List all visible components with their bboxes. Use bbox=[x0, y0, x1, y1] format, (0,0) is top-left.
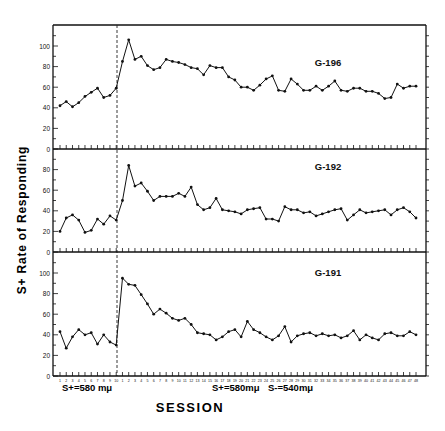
data-point bbox=[265, 218, 268, 221]
data-point bbox=[402, 206, 405, 209]
y-axis-label: S+ Rate of Responding bbox=[15, 146, 29, 294]
data-point bbox=[327, 85, 330, 88]
data-point bbox=[146, 190, 149, 193]
data-point bbox=[315, 85, 318, 88]
data-point bbox=[258, 331, 261, 334]
data-point bbox=[90, 331, 93, 334]
data-point bbox=[196, 331, 199, 334]
data-point bbox=[290, 78, 293, 81]
data-point bbox=[371, 336, 374, 339]
x-tick-label: 36 bbox=[339, 379, 343, 383]
x-tick-label: 40 bbox=[364, 379, 368, 383]
x-tick-label: 5 bbox=[146, 379, 148, 383]
data-point bbox=[283, 325, 286, 328]
x-tick-label: 46 bbox=[402, 379, 406, 383]
x-tick-label: 34 bbox=[327, 379, 331, 383]
data-point bbox=[146, 64, 149, 67]
data-point bbox=[302, 211, 305, 214]
data-point bbox=[415, 333, 418, 336]
data-point bbox=[358, 339, 361, 342]
data-point bbox=[215, 339, 218, 342]
data-point bbox=[346, 219, 349, 222]
y-tick-label: 100 bbox=[39, 43, 50, 50]
data-point bbox=[127, 38, 130, 41]
data-point bbox=[415, 85, 418, 88]
data-point bbox=[190, 323, 193, 326]
data-point bbox=[208, 333, 211, 336]
data-point bbox=[202, 332, 205, 335]
x-tick-label: 1 bbox=[121, 379, 123, 383]
x-tick-label: 8 bbox=[165, 379, 167, 383]
data-point bbox=[121, 277, 124, 280]
data-point bbox=[402, 334, 405, 337]
y-tick-label: 40 bbox=[43, 331, 51, 338]
panel-g-191: 020406080100G-191 bbox=[39, 263, 429, 380]
data-point bbox=[290, 341, 293, 344]
data-point bbox=[246, 86, 249, 89]
data-point bbox=[383, 332, 386, 335]
data-point bbox=[84, 95, 87, 98]
x-tick-label: 12 bbox=[189, 379, 193, 383]
data-point bbox=[109, 341, 112, 344]
data-point bbox=[152, 313, 155, 316]
data-point bbox=[146, 303, 149, 306]
data-point bbox=[71, 214, 74, 217]
data-point bbox=[371, 90, 374, 93]
data-point bbox=[365, 333, 368, 336]
data-point bbox=[134, 58, 137, 61]
data-point bbox=[246, 320, 249, 323]
data-point bbox=[202, 208, 205, 211]
data-point bbox=[246, 208, 249, 211]
data-point bbox=[308, 331, 311, 334]
y-tick-label: 0 bbox=[46, 146, 50, 153]
data-point bbox=[396, 208, 399, 211]
y-tick-label: 80 bbox=[43, 166, 51, 173]
data-point bbox=[177, 61, 180, 64]
y-tick-label: 60 bbox=[43, 84, 51, 91]
x-tick-label: 44 bbox=[389, 379, 393, 383]
data-point bbox=[121, 199, 124, 202]
data-point bbox=[196, 203, 199, 206]
data-point bbox=[215, 66, 218, 69]
data-point bbox=[308, 89, 311, 92]
data-point bbox=[65, 347, 68, 350]
data-point bbox=[277, 334, 280, 337]
y-tick-label: 60 bbox=[43, 311, 51, 318]
data-point bbox=[340, 336, 343, 339]
data-series-line bbox=[60, 166, 416, 233]
data-point bbox=[302, 89, 305, 92]
y-tick-label: 80 bbox=[43, 290, 51, 297]
y-tick-label: 0 bbox=[46, 249, 50, 256]
data-point bbox=[390, 331, 393, 334]
data-point bbox=[221, 66, 224, 69]
data-point bbox=[109, 94, 112, 97]
panel-label: G-196 bbox=[315, 57, 341, 68]
data-point bbox=[252, 207, 255, 210]
data-point bbox=[390, 96, 393, 99]
data-point bbox=[165, 312, 168, 315]
data-point bbox=[346, 334, 349, 337]
data-point bbox=[177, 319, 180, 322]
data-point bbox=[196, 67, 199, 70]
data-point bbox=[159, 308, 162, 311]
data-point bbox=[115, 344, 118, 347]
data-point bbox=[233, 79, 236, 82]
data-point bbox=[71, 335, 74, 338]
data-point bbox=[240, 335, 243, 338]
data-point bbox=[134, 185, 137, 188]
y-tick-label: 100 bbox=[39, 270, 50, 277]
data-point bbox=[296, 334, 299, 337]
data-point bbox=[340, 207, 343, 210]
x-tick-label: 9 bbox=[171, 379, 173, 383]
data-point bbox=[227, 76, 230, 79]
data-point bbox=[258, 206, 261, 209]
data-point bbox=[221, 335, 224, 338]
data-point bbox=[59, 104, 62, 107]
data-point bbox=[140, 293, 143, 296]
data-point bbox=[90, 229, 93, 232]
data-point bbox=[408, 210, 411, 213]
data-point bbox=[365, 90, 368, 93]
data-point bbox=[252, 89, 255, 92]
data-point bbox=[327, 334, 330, 337]
data-point bbox=[271, 339, 274, 342]
